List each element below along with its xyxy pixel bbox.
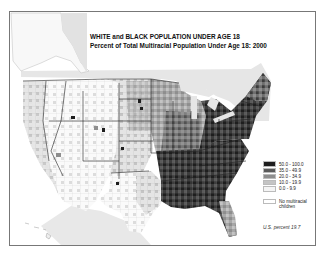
map-frame: WHITE and BLACK POPULATION UNDER AGE 18 … <box>9 11 316 246</box>
legend: 50.0 - 100.0 35.0 - 49.9 20.0 - 34.9 10.… <box>263 161 316 210</box>
legend-swatch <box>263 168 276 173</box>
legend-swatch <box>263 186 276 191</box>
legend-label: No multiracial children <box>279 199 316 210</box>
title-line-2: Percent of Total Multiracial Population … <box>90 41 267 50</box>
legend-label: 50.0 - 100.0 <box>279 162 304 167</box>
legend-label: 0.0 - 9.9 <box>279 186 296 191</box>
legend-swatch <box>263 199 276 204</box>
us-percent-note: U.S. percent 19.7 <box>263 225 300 230</box>
map-title: WHITE and BLACK POPULATION UNDER AGE 18 … <box>90 32 267 50</box>
legend-label: 10.0 - 19.9 <box>279 180 301 185</box>
legend-swatch <box>263 180 276 185</box>
legend-item-0-9: 0.0 - 9.9 <box>263 186 316 192</box>
legend-label: 35.0 - 49.9 <box>279 168 301 173</box>
legend-item-no-data: No multiracial children <box>263 199 316 210</box>
legend-label: 20.0 - 34.9 <box>279 174 301 179</box>
legend-swatch <box>263 174 276 179</box>
title-line-1: WHITE and BLACK POPULATION UNDER AGE 18 <box>90 32 267 41</box>
lake-michigan <box>191 96 197 119</box>
legend-swatch <box>263 161 276 166</box>
